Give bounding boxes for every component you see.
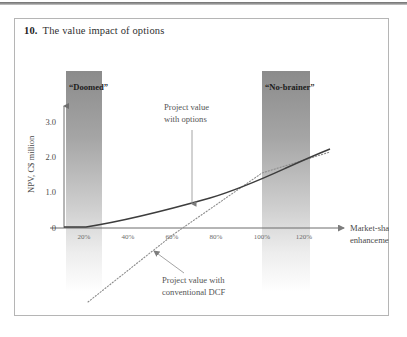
x-tick-80: 80% [210, 233, 223, 241]
y-axis-title: NPV, C$ million [26, 135, 36, 193]
x-axis-title-line2: enhancement [350, 235, 389, 245]
annotation-dcf-line1: Project value with [162, 275, 225, 285]
page-top-rule [0, 2, 407, 5]
value-impact-chart: “Doomed” “No-brainer” 3.0 2.0 1.0 0 NPV,… [14, 18, 389, 316]
x-tick-20: 20% [78, 233, 91, 241]
y-tick-3: 3.0 [45, 117, 56, 127]
band-label-doomed: “Doomed” [69, 82, 108, 92]
x-axis-title-line1: Market-share [350, 223, 389, 233]
band-no-brainer [262, 71, 310, 292]
x-tick-120: 120% [296, 233, 313, 241]
x-tick-40: 40% [122, 233, 135, 241]
chart-canvas: “Doomed” “No-brainer” 3.0 2.0 1.0 0 NPV,… [14, 18, 389, 316]
annotation-options-line2: with options [164, 114, 207, 124]
y-tick-2: 2.0 [45, 152, 56, 162]
band-doomed [66, 71, 102, 292]
annotation-dcf-leader [154, 251, 184, 273]
band-label-no-brainer: “No-brainer” [265, 82, 315, 92]
annotation-dcf-line2: conventional DCF [162, 287, 225, 297]
x-tick-100: 100% [254, 233, 271, 241]
x-tick-60: 60% [166, 233, 179, 241]
annotation-options-line1: Project value [164, 102, 209, 112]
y-tick-1: 1.0 [45, 187, 56, 197]
exhibit-page: 10.The value impact of options [0, 0, 407, 337]
y-tick-0: 0 [52, 223, 56, 233]
